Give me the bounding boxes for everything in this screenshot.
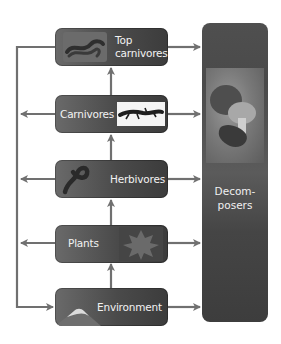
return-loop-arrow: [17, 47, 55, 307]
node-label: Plants: [68, 237, 99, 249]
food-web-diagram: Top carnivores Carnivores Herbivores Pla…: [0, 0, 281, 344]
decomposers-label-line1: Decom-: [215, 185, 256, 197]
node-herbivores: Herbivores: [55, 160, 168, 198]
node-plants: Plants: [55, 225, 168, 263]
mushroom-icon: [206, 68, 264, 163]
decomposers-label: Decom- posers: [202, 184, 268, 212]
node-label-line1: Top: [115, 34, 132, 46]
leaf-icon: [119, 227, 163, 261]
node-decomposers: Decom- posers: [202, 23, 268, 322]
node-label: Herbivores: [110, 173, 165, 185]
mushroom-photo: [206, 68, 264, 163]
node-label: Environment: [97, 301, 162, 313]
node-environment: Environment: [55, 288, 168, 326]
node-label-line2: carnivores: [115, 47, 168, 59]
snake-icon: [63, 32, 107, 62]
salamander-icon: [117, 102, 165, 126]
node-carnivores: Carnivores: [55, 95, 168, 133]
caterpillar-icon: [59, 162, 99, 196]
node-top-carnivores: Top carnivores: [55, 28, 168, 66]
decomposers-label-line2: posers: [218, 199, 253, 211]
node-label: Carnivores: [60, 108, 114, 120]
